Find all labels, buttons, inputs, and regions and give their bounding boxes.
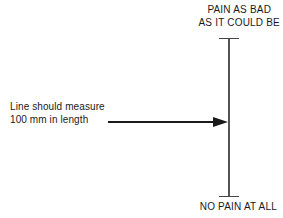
top-anchor-label-line2: AS IT COULD BE xyxy=(198,16,280,29)
bottom-anchor-label: NO PAIN AT ALL xyxy=(200,200,277,213)
top-anchor-label: PAIN AS BAD AS IT COULD BE xyxy=(198,3,280,29)
top-anchor-label-line1: PAIN AS BAD xyxy=(198,3,280,16)
measurement-annotation-line1: Line should measure xyxy=(10,100,105,113)
visual-analogue-scale-figure: PAIN AS BAD AS IT COULD BE NO PAIN AT AL… xyxy=(0,0,283,218)
annotation-arrow-head xyxy=(213,117,228,127)
bottom-anchor-label-line1: NO PAIN AT ALL xyxy=(200,201,277,212)
measurement-annotation-line2: 100 mm in length xyxy=(10,113,105,126)
measurement-annotation-label: Line should measure 100 mm in length xyxy=(10,100,105,126)
